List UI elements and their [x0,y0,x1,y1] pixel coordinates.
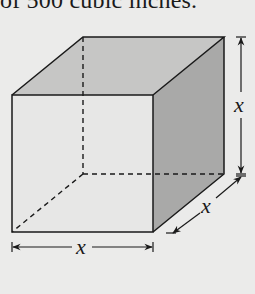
depth-label: x [200,193,211,218]
height-label: x [233,92,244,117]
cube-diagram: x x x [0,0,255,294]
width-label: x [75,234,86,259]
